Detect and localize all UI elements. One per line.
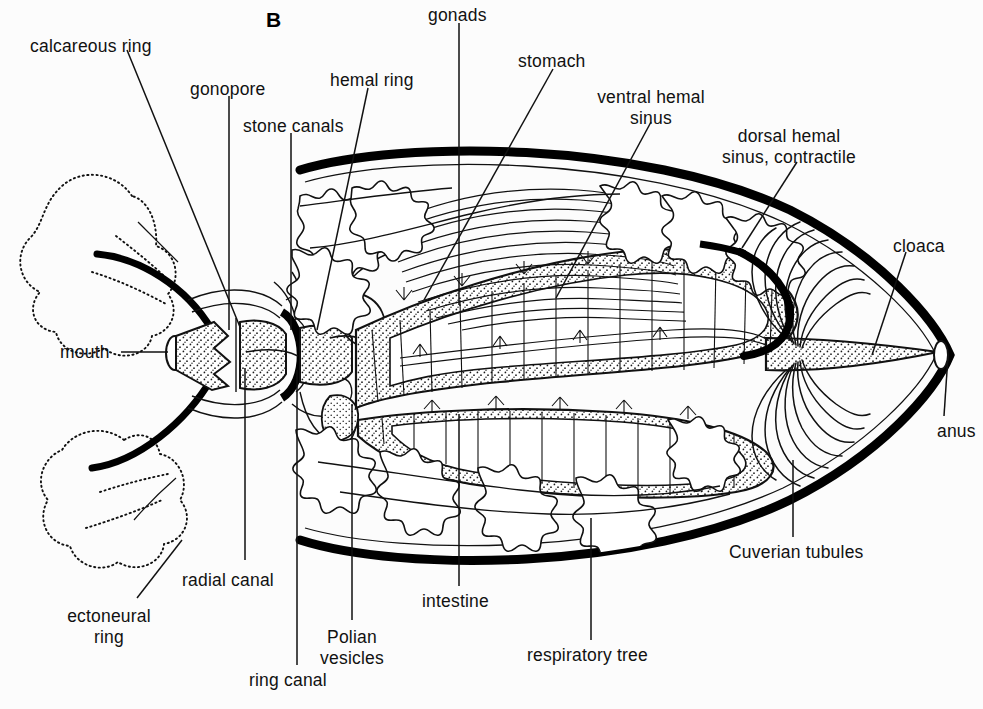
label-cuverian-tubules: Cuverian tubules	[729, 542, 864, 563]
leader-ectoneural-ring	[137, 540, 182, 598]
label-ectoneural-ring: ectoneural ring	[48, 606, 170, 647]
label-hemal-ring: hemal ring	[330, 70, 414, 91]
label-ventral-hemal-sinus: ventral hemal sinus	[581, 87, 721, 128]
tentacle-crown-group	[20, 175, 187, 568]
label-intestine: intestine	[422, 591, 489, 612]
tentacle-stalk-lower	[92, 378, 212, 468]
label-gonads: gonads	[428, 5, 487, 26]
label-mouth: mouth	[60, 342, 110, 363]
tentacle-stalk-upper	[97, 254, 212, 330]
label-cloaca: cloaca	[893, 236, 945, 257]
label-stone-canals: stone canals	[243, 116, 344, 137]
esophagus-segment	[240, 321, 286, 390]
label-dorsal-hemal-sinus: dorsal hemal sinus, contractile	[700, 126, 878, 167]
label-polian-vesicles: Polian vesicles	[305, 627, 399, 668]
label-ring-canal: ring canal	[249, 670, 327, 691]
tentacle-lower-outline	[41, 431, 187, 568]
label-calcareous-ring: calcareous ring	[30, 36, 152, 57]
tentacle-lower-fold-b	[86, 500, 162, 528]
label-gonopore: gonopore	[190, 79, 266, 100]
anatomy-illustration	[0, 0, 983, 709]
label-radial-canal: radial canal	[182, 570, 274, 591]
panel-letter: B	[266, 8, 281, 32]
calcareous-ring-anterior	[176, 322, 230, 390]
label-anus: anus	[937, 421, 976, 442]
label-stomach: stomach	[518, 51, 586, 72]
anus-opening	[934, 341, 948, 369]
figure-canvas: B calcareous ring gonopore stone canals …	[0, 0, 983, 709]
label-respiratory-tree: respiratory tree	[527, 645, 648, 666]
tentacle-lower-fold-a	[100, 474, 168, 492]
tuft	[396, 287, 412, 300]
